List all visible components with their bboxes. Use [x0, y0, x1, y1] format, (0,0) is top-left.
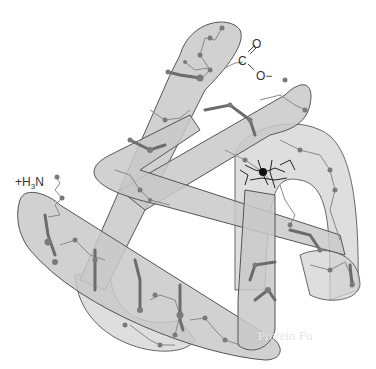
n-terminus-label: +H3N: [15, 175, 44, 191]
carboxyl-oxygen-double: O: [252, 37, 261, 51]
carboxyl-carbon: C: [238, 54, 247, 68]
carboxyl-oxygen-minus: O−: [256, 69, 272, 83]
n-terminus-node: [55, 175, 60, 180]
protein-diagram: Protein Fu .tube { fill: #c9c9c9; fill-o…: [0, 0, 376, 369]
protein-illustration: .tube { fill: #c9c9c9; fill-opacity: 0.8…: [0, 0, 376, 369]
right-vertical-tube: [238, 190, 275, 350]
bleed-through-heading: Protein Fu: [258, 328, 313, 344]
iron-atom: [259, 168, 267, 176]
